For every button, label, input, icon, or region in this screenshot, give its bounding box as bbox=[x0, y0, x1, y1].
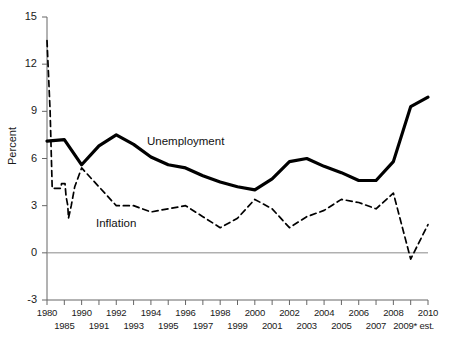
chart-plot-svg bbox=[0, 0, 449, 350]
axes-group bbox=[42, 17, 428, 305]
series-line-unemployment bbox=[47, 97, 428, 190]
y-tick-label-6: 6 bbox=[11, 152, 37, 164]
chart-container: Percent 15129630-3 198019851990199119921… bbox=[0, 0, 449, 350]
series-annotation-unemployment: Unemployment bbox=[147, 135, 224, 147]
y-tick-label-0: 0 bbox=[11, 246, 37, 258]
y-tick-label-9: 9 bbox=[11, 104, 37, 116]
y-tick-label-neg3: -3 bbox=[11, 293, 37, 305]
y-tick-label-12: 12 bbox=[11, 57, 37, 69]
x-tick-label-2010: 2010 bbox=[408, 307, 448, 318]
x-tick-label-2009est: 2009* est. bbox=[387, 320, 441, 331]
y-tick-label-3: 3 bbox=[11, 199, 37, 211]
series-annotation-inflation: Inflation bbox=[96, 217, 136, 229]
y-tick-label-15: 15 bbox=[11, 10, 37, 22]
